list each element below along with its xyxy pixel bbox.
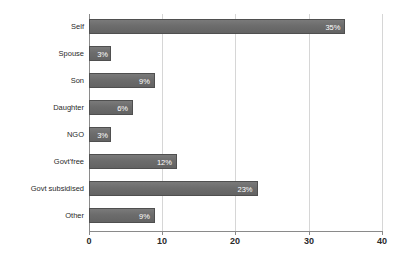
category-label: Spouse — [0, 46, 84, 61]
category-label: Son — [0, 73, 84, 88]
x-tick-label: 40 — [377, 236, 387, 246]
bar-value-label: 23% — [90, 182, 257, 197]
bar-value-label: 35% — [90, 20, 344, 35]
bar[interactable]: 3% — [89, 127, 111, 142]
tick-mark-0 — [89, 231, 90, 235]
bar-value-label: 6% — [90, 101, 132, 116]
bar-value-label: 12% — [90, 155, 176, 170]
bar-row: Govt'free 12% — [89, 154, 382, 169]
bar[interactable]: 35% — [89, 19, 345, 34]
bar-row: Other 9% — [89, 208, 382, 223]
gridline-40 — [382, 14, 383, 231]
category-label: Other — [0, 208, 84, 223]
bar-value-label: 3% — [90, 128, 110, 143]
bar[interactable]: 3% — [89, 46, 111, 61]
bar[interactable]: 23% — [89, 181, 258, 196]
bar-row: NGO 3% — [89, 127, 382, 142]
category-label: Govt subsidised — [0, 181, 84, 196]
tick-mark-20 — [235, 231, 236, 235]
bar[interactable]: 12% — [89, 154, 177, 169]
bar[interactable]: 6% — [89, 100, 133, 115]
bar-chart: Self 35% Spouse 3% Son 9% Daughter 6% NG… — [0, 0, 407, 257]
bar[interactable]: 9% — [89, 73, 155, 88]
bar[interactable]: 9% — [89, 208, 155, 223]
category-label: Self — [0, 19, 84, 34]
x-tick-label: 20 — [230, 236, 240, 246]
tick-mark-10 — [162, 231, 163, 235]
x-tick-label: 0 — [86, 236, 91, 246]
category-label: Daughter — [0, 100, 84, 115]
bar-row: Daughter 6% — [89, 100, 382, 115]
tick-mark-40 — [382, 231, 383, 235]
tick-mark-30 — [309, 231, 310, 235]
x-tick-label: 30 — [304, 236, 314, 246]
bar-value-label: 9% — [90, 74, 154, 89]
bar-row: Son 9% — [89, 73, 382, 88]
category-label: Govt'free — [0, 154, 84, 169]
x-axis-line — [89, 231, 383, 232]
bar-value-label: 3% — [90, 47, 110, 62]
category-label: NGO — [0, 127, 84, 142]
bar-row: Govt subsidised 23% — [89, 181, 382, 196]
bar-value-label: 9% — [90, 209, 154, 224]
x-tick-label: 10 — [157, 236, 167, 246]
bar-row: Self 35% — [89, 19, 382, 34]
bar-row: Spouse 3% — [89, 46, 382, 61]
